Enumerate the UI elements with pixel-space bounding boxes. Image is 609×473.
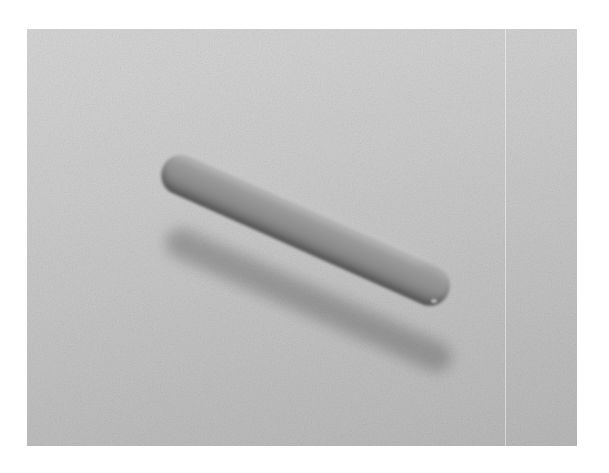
bacterium bbox=[27, 29, 577, 446]
micrograph-frame bbox=[27, 29, 577, 446]
bacterium-tip-highlight bbox=[431, 299, 437, 303]
